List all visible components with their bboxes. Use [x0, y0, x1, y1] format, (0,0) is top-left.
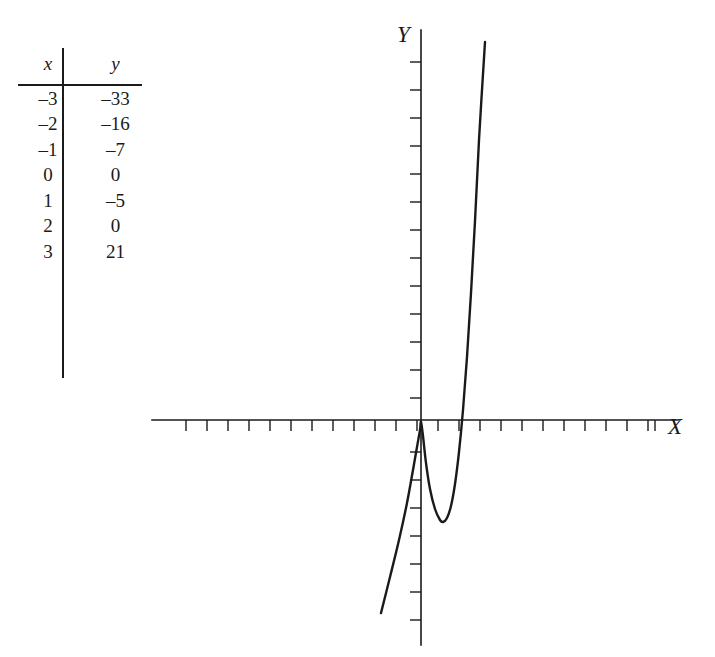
axes-group: [152, 30, 678, 645]
x-axis-label: X: [667, 414, 683, 439]
cubic-curve: [381, 42, 485, 613]
figure-container: x y –3 –33 –2 –16 –: [0, 0, 715, 657]
coordinate-graph: X Y: [0, 0, 715, 657]
y-axis-label: Y: [397, 22, 412, 47]
graph-svg: X Y: [0, 0, 715, 657]
y-axis-tick-marks: [410, 62, 421, 620]
